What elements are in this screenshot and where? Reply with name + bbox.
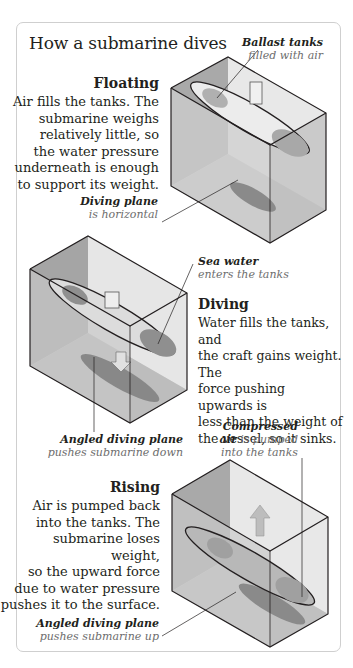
diving-box-illustration bbox=[30, 236, 187, 423]
rising-box-illustration bbox=[172, 460, 328, 647]
diving-heading: Diving bbox=[198, 296, 249, 312]
label-angled-plane-down: Angled diving planepushes submarine down bbox=[48, 433, 183, 459]
label-diving-plane: Diving planeis horizontal bbox=[80, 195, 158, 221]
label-angled-plane-up: Angled diving planepushes submarine up bbox=[36, 617, 159, 643]
floating-box-illustration bbox=[171, 57, 326, 243]
rising-body: Air is pumped backinto the tanks. Thesub… bbox=[0, 498, 160, 614]
label-sea-water: Sea waterenters the tanks bbox=[198, 255, 289, 281]
label-compressed-air: Compressedair is pumpedinto the tanks bbox=[220, 420, 298, 459]
label-ballast-tanks: Ballast tanksfilled with air bbox=[242, 36, 323, 62]
rising-heading: Rising bbox=[110, 479, 160, 495]
floating-body: Air fills the tanks. Thesubmarine weighs… bbox=[0, 94, 159, 193]
page-title: How a submarine dives bbox=[29, 33, 227, 53]
floating-heading: Floating bbox=[94, 75, 159, 91]
